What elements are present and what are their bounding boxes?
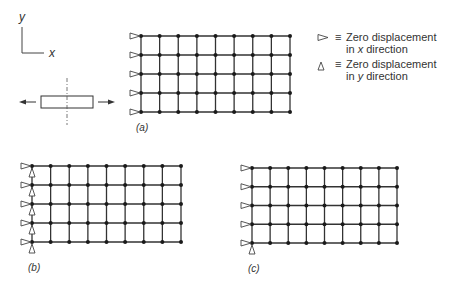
mesh-node: [395, 241, 399, 245]
mesh-node: [86, 202, 90, 206]
x-support-icon: [241, 165, 251, 171]
mesh-node: [323, 204, 327, 208]
legend-y-line2: in y direction: [346, 70, 408, 82]
mesh-node: [395, 204, 399, 208]
mesh-node: [288, 110, 292, 114]
x-support-icon: [130, 52, 140, 58]
mesh-node: [158, 91, 162, 95]
mesh-node: [179, 221, 183, 225]
mesh-node: [286, 166, 290, 170]
mesh-node: [142, 240, 146, 244]
mesh-node: [214, 110, 218, 114]
mesh-b-label: (b): [28, 262, 40, 273]
x-support-icon: [21, 220, 31, 226]
mesh-node: [232, 53, 236, 57]
mesh-node: [179, 183, 183, 187]
mesh-node: [323, 222, 327, 226]
legend-x-line2-pre: in: [346, 43, 358, 55]
mesh-node: [286, 241, 290, 245]
mesh-node: [67, 183, 71, 187]
mesh-node: [288, 34, 292, 38]
mesh-node: [86, 164, 90, 168]
mesh-node: [49, 164, 53, 168]
mesh-node: [341, 185, 345, 189]
mesh-node: [123, 240, 127, 244]
mesh-node: [341, 222, 345, 226]
mesh-b: [21, 163, 183, 253]
mesh-node: [288, 72, 292, 76]
mesh-node: [341, 166, 345, 170]
mesh-node: [232, 110, 236, 114]
mesh-node: [251, 34, 255, 38]
mesh-node: [176, 72, 180, 76]
mesh-node: [158, 53, 162, 57]
mesh-node: [176, 34, 180, 38]
mesh-node: [359, 166, 363, 170]
mesh-node: [232, 34, 236, 38]
mesh-node: [214, 72, 218, 76]
mesh-node: [323, 241, 327, 245]
mesh-node: [86, 183, 90, 187]
mesh-node: [286, 185, 290, 189]
mesh-node: [269, 72, 273, 76]
mesh-node: [86, 240, 90, 244]
x-support-icon: [21, 201, 31, 207]
mesh-node: [268, 166, 272, 170]
mesh-node: [251, 91, 255, 95]
mesh-node: [269, 110, 273, 114]
y-support-icon: [29, 206, 35, 215]
mesh-node: [105, 221, 109, 225]
mesh-node: [359, 222, 363, 226]
mesh-node: [160, 221, 164, 225]
mesh-node: [123, 221, 127, 225]
x-support-icon: [241, 221, 251, 227]
mesh-node: [105, 202, 109, 206]
mesh-node: [67, 240, 71, 244]
mesh-node: [142, 221, 146, 225]
legend-x-line1: Zero displacement: [346, 31, 437, 43]
mesh-node: [286, 222, 290, 226]
mesh-node: [304, 185, 308, 189]
mesh-node: [67, 202, 71, 206]
mesh-node: [395, 222, 399, 226]
mesh-node: [195, 110, 199, 114]
mesh-node: [395, 166, 399, 170]
mesh-node: [269, 53, 273, 57]
mesh-node: [251, 72, 255, 76]
left-arrow-icon: [19, 100, 26, 105]
mesh-node: [105, 240, 109, 244]
mesh-node: [304, 204, 308, 208]
y-support-icon: [249, 245, 255, 254]
legend-equiv-symbol: ≡: [335, 31, 341, 43]
mesh-node: [377, 222, 381, 226]
mesh-node: [86, 221, 90, 225]
mesh-node: [158, 34, 162, 38]
y-support-icon: [29, 187, 35, 196]
mesh-node: [269, 34, 273, 38]
x-axis-label: x: [49, 46, 55, 60]
mesh-node: [377, 204, 381, 208]
right-arrow-icon: [108, 100, 115, 105]
y-support-icon: [29, 225, 35, 234]
mesh-node: [142, 183, 146, 187]
mesh-node: [142, 164, 146, 168]
mesh-node: [49, 221, 53, 225]
mesh-node: [176, 91, 180, 95]
x-support-icon: [21, 239, 31, 245]
mesh-node: [304, 241, 308, 245]
y-support-icon: [29, 168, 35, 177]
x-support-icon: [130, 109, 140, 115]
mesh-node: [377, 185, 381, 189]
mesh-node: [251, 53, 255, 57]
mesh-node: [341, 241, 345, 245]
mesh-node: [176, 53, 180, 57]
mesh-node: [49, 183, 53, 187]
mesh-node: [105, 164, 109, 168]
x-support-icon: [241, 203, 251, 209]
mesh-node: [214, 34, 218, 38]
x-support-icon: [130, 71, 140, 77]
mesh-node: [323, 185, 327, 189]
mesh-node: [288, 53, 292, 57]
mesh-node: [304, 222, 308, 226]
mesh-node: [232, 91, 236, 95]
